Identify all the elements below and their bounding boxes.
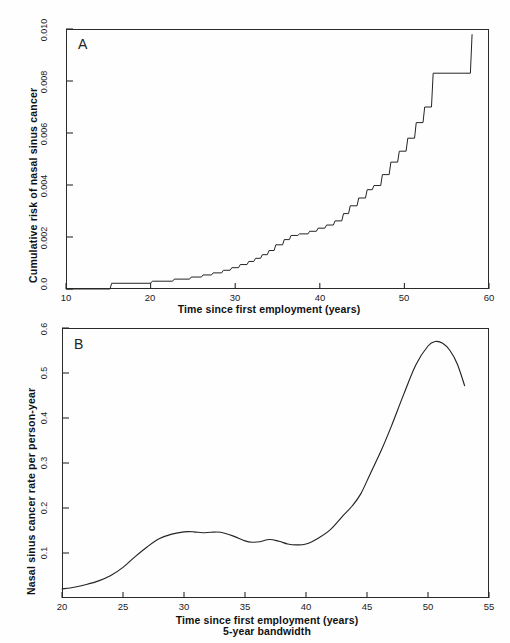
panel-a-tick-marks (66, 29, 489, 289)
panel-a-x-axis-title: Time since first employment (years) (14, 303, 510, 315)
panel-b-x-axis-subtitle: 5-year bandwidth (12, 625, 510, 637)
panel-b-data-line (62, 341, 465, 589)
panel-b-tick-marks (62, 328, 489, 598)
panel-b: Nasal sinus cancer rate per person-year … (0, 318, 510, 643)
panel-a-data-line (66, 34, 472, 289)
panel-b-plot-svg (0, 318, 510, 643)
panel-a-plot-svg (0, 0, 510, 318)
figure-container: Cumulative risk of nasal sinus cancer A … (0, 0, 510, 643)
panel-a: Cumulative risk of nasal sinus cancer A … (0, 0, 510, 318)
